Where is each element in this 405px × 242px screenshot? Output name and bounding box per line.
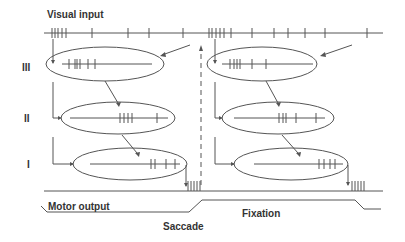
saccade-fixation-diagram: Visual input III II I [0, 0, 405, 242]
fixation-label: Fixation [242, 208, 280, 219]
layer-2-label: II [24, 113, 30, 124]
right-panel [207, 39, 352, 186]
left-2-to-1-arrow [122, 135, 137, 153]
left-3-to-2-arrow [105, 81, 118, 103]
layer-3-label: III [22, 62, 31, 73]
right-feedback-arrow [323, 45, 352, 55]
motor-output-label: Motor output [48, 201, 110, 212]
right-2-to-1-arrow [282, 135, 298, 153]
saccade-label: Saccade [163, 221, 204, 232]
left-feedback-arrow [162, 45, 190, 55]
right-3-to-2-arrow [266, 81, 278, 103]
output-bursts [188, 181, 364, 191]
left-panel [46, 39, 190, 187]
layer-1-label: I [27, 159, 30, 170]
visual-input-label: Visual input [47, 9, 104, 20]
